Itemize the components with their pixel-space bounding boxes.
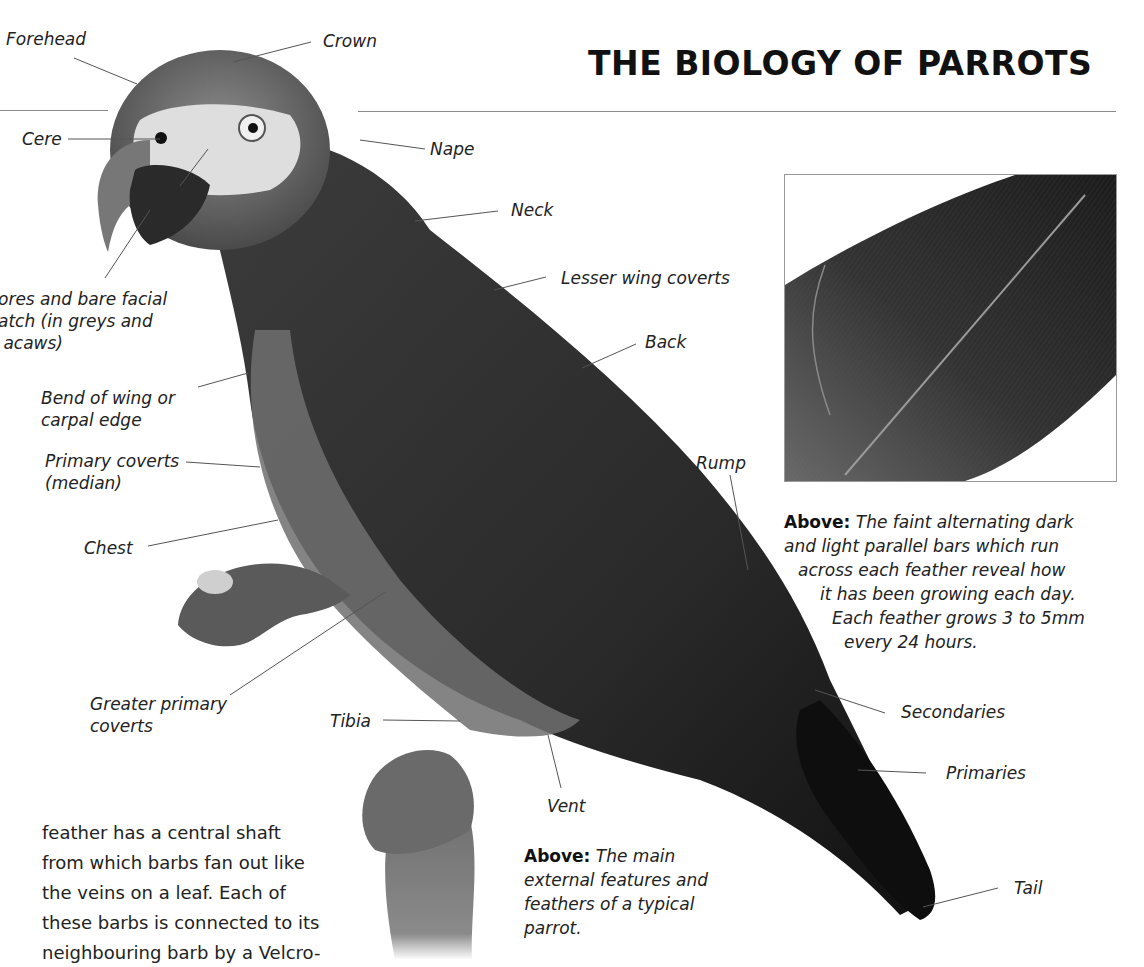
- feather-caption-lead: Above:: [784, 512, 850, 532]
- feather-caption: Above: The faint alternating dark and li…: [784, 510, 1144, 654]
- label-secondaries: Secondaries: [901, 701, 1005, 723]
- label-greater-primary-coverts: Greater primary coverts: [90, 693, 227, 737]
- label-rump: Rump: [696, 452, 746, 474]
- perch-branch: [385, 784, 474, 959]
- label-cere: Cere: [22, 128, 62, 150]
- feather-photo: [784, 174, 1117, 482]
- label-neck: Neck: [511, 199, 553, 221]
- feather-caption-line: it has been growing each day.: [820, 584, 1076, 604]
- label-tail: Tail: [1014, 877, 1042, 899]
- feather-caption-line: Each feather grows 3 to 5mm: [832, 608, 1085, 628]
- label-crown: Crown: [323, 30, 377, 52]
- feather-caption-line: and light parallel bars which run: [784, 536, 1059, 556]
- page-title: THE BIOLOGY OF PARROTS: [588, 44, 1092, 83]
- feather-caption-line: across each feather reveal how: [798, 560, 1065, 580]
- body-paragraph: feather has a central shaft from which b…: [42, 818, 320, 967]
- label-chest: Chest: [84, 537, 133, 559]
- main-caption: Above: The main external features and fe…: [524, 844, 744, 940]
- label-primary-coverts: Primary coverts (median): [45, 450, 179, 494]
- label-facial-patch: ores and bare facial atch (in greys and …: [0, 288, 167, 354]
- main-caption-lead: Above:: [524, 846, 590, 866]
- feather-caption-line: The faint alternating dark: [856, 512, 1074, 532]
- label-lesser-wing-coverts: Lesser wing coverts: [561, 267, 730, 289]
- label-bend-of-wing: Bend of wing or carpal edge: [41, 387, 175, 431]
- label-primaries: Primaries: [946, 762, 1026, 784]
- label-vent: Vent: [547, 795, 586, 817]
- label-back: Back: [645, 331, 686, 353]
- header-rule-left: [0, 110, 108, 111]
- label-forehead: Forehead: [6, 28, 86, 50]
- feather-caption-line: every 24 hours.: [844, 632, 978, 652]
- label-nape: Nape: [430, 138, 474, 160]
- label-tibia: Tibia: [330, 710, 371, 732]
- header-rule-right: [358, 111, 1116, 112]
